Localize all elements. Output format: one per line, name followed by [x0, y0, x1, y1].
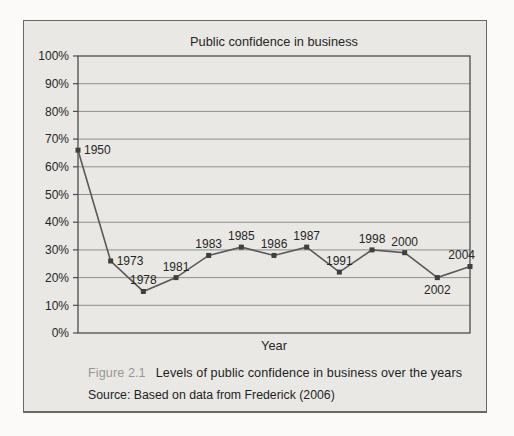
data-point-label: 2004 [448, 248, 475, 262]
y-tick-label: 60% [45, 160, 69, 174]
figure-box: Public confidence in business Year 0%10%… [23, 20, 487, 413]
data-point-marker [239, 245, 244, 250]
y-tick-label: 30% [45, 243, 69, 257]
y-tick-label: 100% [38, 49, 69, 63]
data-point-marker [141, 289, 146, 294]
data-point-label: 1991 [326, 254, 353, 268]
chart-title: Public confidence in business [190, 34, 358, 49]
y-tick-label: 70% [45, 132, 69, 146]
data-point-label: 1981 [163, 260, 190, 274]
data-point-label: 1986 [261, 237, 288, 251]
figure-caption-text: Levels of public confidence in business … [156, 366, 462, 380]
data-point-marker [337, 270, 342, 275]
data-point-marker [402, 250, 407, 255]
data-point-label: 1985 [228, 229, 255, 243]
y-tick-label: 10% [45, 299, 69, 313]
data-point-marker [468, 264, 473, 269]
data-point-label: 1978 [130, 273, 157, 287]
data-point-marker [76, 148, 81, 153]
data-point-label: 2000 [391, 235, 418, 249]
y-tick-label: 40% [45, 215, 69, 229]
data-point-label: 2002 [424, 283, 451, 297]
data-point-label: 1983 [195, 237, 222, 251]
data-point-marker [174, 275, 179, 280]
y-tick-label: 0% [52, 326, 70, 340]
data-point-marker [435, 275, 440, 280]
data-point-label: 1998 [359, 232, 386, 246]
figure-caption-label: Figure 2.1 [88, 366, 146, 380]
y-tick-label: 50% [45, 188, 69, 202]
data-point-label: 1987 [293, 229, 320, 243]
figure-caption: Figure 2.1Levels of public confidence in… [88, 366, 462, 380]
y-tick-label: 90% [45, 77, 69, 91]
data-point-marker [272, 253, 277, 258]
data-point-label: 1973 [117, 254, 144, 268]
line-chart: Public confidence in business Year 0%10%… [24, 21, 486, 361]
x-axis-title: Year [261, 338, 288, 353]
data-point-marker [370, 247, 375, 252]
data-point-marker [304, 245, 309, 250]
series-line [78, 150, 470, 291]
source-note: Source: Based on data from Frederick (20… [88, 388, 335, 402]
data-point-marker [108, 258, 113, 263]
data-point-marker [206, 253, 211, 258]
y-tick-label: 80% [45, 105, 69, 119]
y-tick-label: 20% [45, 271, 69, 285]
data-point-label: 1950 [84, 143, 111, 157]
